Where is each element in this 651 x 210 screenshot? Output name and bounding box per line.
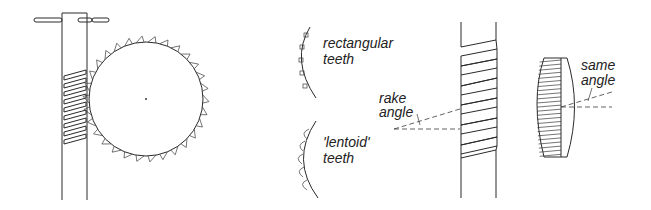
rectangular-teeth-arc	[299, 27, 316, 98]
toothed-wheel	[83, 36, 209, 162]
pinion-tooth	[539, 68, 561, 70]
worm-rake-panel	[461, 22, 497, 198]
label-same-2: angle	[581, 72, 615, 88]
wheel-tooth	[97, 60, 103, 69]
pinion-tooth	[538, 134, 561, 136]
pinion-tooth	[539, 142, 562, 144]
worm-rake-threads	[461, 40, 497, 158]
label-lentoid-2: teeth	[323, 150, 354, 166]
pinion-tooth	[538, 138, 561, 140]
label-rake-2: angle	[379, 104, 413, 120]
pinion-tooth	[538, 72, 561, 74]
pinion-tooth	[537, 113, 561, 115]
label-rectangular-2: teeth	[323, 51, 354, 67]
pinion-tooth	[537, 122, 561, 124]
tooth-profiles-panel: rectangular teeth 'lentoid' teeth rake a…	[298, 27, 460, 198]
pinion-tooth	[537, 101, 561, 103]
lentoid-teeth-arc	[298, 121, 318, 198]
worm-threads	[64, 70, 86, 144]
wheel-tooth	[203, 95, 209, 103]
diagram-canvas: rectangular teeth 'lentoid' teeth rake a…	[0, 0, 651, 210]
pinion-tooth	[540, 154, 561, 156]
wheel-tooth	[190, 129, 196, 138]
pinion-tooth	[538, 76, 561, 78]
pinion-tooth	[537, 117, 561, 119]
label-rectangular-1: rectangular	[323, 35, 394, 51]
worm-and-wheel-panel	[34, 13, 209, 200]
pinion-tooth	[537, 89, 561, 91]
label-lentoid-1: 'lentoid'	[323, 134, 371, 150]
pinion-tooth	[538, 85, 561, 87]
label-same-1: same	[581, 57, 615, 73]
pinion-panel: same angle	[537, 57, 615, 157]
pinion-tooth	[537, 105, 561, 107]
worm-shaft	[34, 13, 109, 200]
pinion-tooth	[537, 126, 561, 128]
pinion-tooth	[537, 93, 561, 95]
pinion-tooth	[537, 97, 561, 99]
pinion-tooth	[538, 81, 561, 83]
pinion-tooth	[538, 130, 561, 132]
pinion-tooth	[537, 109, 561, 111]
